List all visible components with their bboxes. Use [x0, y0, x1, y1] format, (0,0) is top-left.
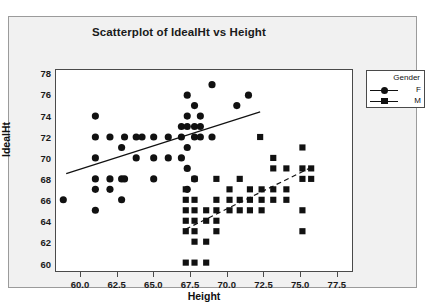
- data-point-circle: [92, 133, 99, 140]
- x-tick-label: 60.0: [71, 279, 90, 290]
- data-point-square: [213, 228, 219, 234]
- legend: Gender F M: [366, 70, 425, 108]
- data-point-circle: [184, 144, 191, 151]
- x-tick-label: 72.5: [254, 279, 273, 290]
- y-tick-label: 60: [40, 258, 51, 269]
- y-tick-label: 70: [40, 152, 51, 163]
- data-point-circle: [92, 186, 99, 193]
- y-tick-label: 66: [40, 195, 51, 206]
- legend-item-m[interactable]: M: [367, 95, 425, 107]
- x-tick-mark: [263, 272, 264, 277]
- data-point-circle: [92, 207, 99, 214]
- data-point-circle: [197, 133, 204, 140]
- x-tick-mark: [153, 272, 154, 277]
- data-point-square: [299, 207, 305, 213]
- data-point-circle: [92, 154, 99, 161]
- data-point-circle: [150, 154, 157, 161]
- data-point-square: [299, 176, 305, 182]
- data-point-circle: [184, 165, 191, 172]
- series-f: [60, 81, 260, 214]
- data-point-circle: [233, 102, 240, 109]
- x-tick-mark: [337, 272, 338, 277]
- data-point-square: [283, 197, 289, 203]
- data-point-square: [191, 218, 197, 224]
- x-tick-label: 65.0: [144, 279, 163, 290]
- x-tick-mark: [80, 272, 81, 277]
- cut-off-header-text: [14, 0, 254, 8]
- data-point-square: [213, 176, 219, 182]
- data-point-square: [213, 218, 219, 224]
- x-tick-mark: [117, 272, 118, 277]
- data-point-square: [308, 176, 314, 182]
- y-tick-label: 62: [40, 237, 51, 248]
- data-point-circle: [106, 133, 113, 140]
- data-point-circle: [197, 123, 204, 130]
- data-point-square: [183, 260, 189, 266]
- x-tick-label: 62.5: [107, 279, 126, 290]
- data-point-square: [183, 218, 189, 224]
- x-tick-label: 70.0: [218, 279, 237, 290]
- data-point-square: [203, 260, 209, 266]
- data-point-circle: [118, 144, 125, 151]
- data-point-circle: [133, 154, 140, 161]
- data-point-square: [247, 186, 253, 192]
- data-point-circle: [197, 112, 204, 119]
- data-point-circle: [245, 92, 252, 99]
- data-point-circle: [118, 196, 125, 203]
- data-point-square: [257, 134, 263, 140]
- data-point-circle: [150, 175, 157, 182]
- x-tick-mark: [190, 272, 191, 277]
- data-point-circle: [106, 175, 113, 182]
- data-point-circle: [150, 133, 157, 140]
- graph-window: Scatterplot of IdealHt vs Height 6062646…: [8, 16, 417, 288]
- data-point-square: [270, 155, 276, 161]
- data-point-square: [299, 228, 305, 234]
- data-point-square: [237, 176, 243, 182]
- data-point-circle: [60, 196, 67, 203]
- y-axis-ticks: 60626466687072747678: [21, 69, 51, 272]
- data-point-square: [191, 228, 197, 234]
- data-point-square: [283, 165, 289, 171]
- data-point-square: [270, 197, 276, 203]
- data-point-circle: [208, 133, 215, 140]
- data-point-circle: [165, 133, 172, 140]
- fit-line-f: [66, 112, 260, 174]
- y-tick-label: 74: [40, 110, 51, 121]
- series-m: [183, 134, 315, 266]
- data-point-square: [226, 186, 232, 192]
- x-tick-mark: [227, 272, 228, 277]
- y-axis-label: IdealHt: [0, 122, 12, 157]
- data-point-circle: [121, 133, 128, 140]
- x-axis-label: Height: [55, 290, 353, 302]
- scatter-svg: [56, 70, 352, 271]
- data-point-circle: [184, 123, 191, 130]
- data-point-square: [270, 165, 276, 171]
- data-point-square: [299, 165, 305, 171]
- data-point-square: [247, 207, 253, 213]
- data-point-square: [213, 197, 219, 203]
- data-point-square: [183, 207, 189, 213]
- data-point-square: [203, 239, 209, 245]
- data-point-circle: [208, 81, 215, 88]
- data-point-square: [237, 207, 243, 213]
- data-point-circle: [121, 175, 128, 182]
- data-point-square: [283, 186, 289, 192]
- data-point-square: [191, 207, 197, 213]
- data-point-circle: [92, 112, 99, 119]
- plot-area: [55, 69, 353, 272]
- data-point-square: [191, 176, 197, 182]
- data-point-circle: [106, 186, 113, 193]
- x-tick-label: 67.5: [181, 279, 200, 290]
- data-point-square: [259, 197, 265, 203]
- chart-title: Scatterplot of IdealHt vs Height: [9, 26, 349, 38]
- y-tick-label: 72: [40, 131, 51, 142]
- legend-label-m: M: [414, 95, 421, 107]
- data-point-square: [259, 207, 265, 213]
- data-point-circle: [191, 102, 198, 109]
- data-point-circle: [138, 133, 145, 140]
- y-tick-label: 76: [40, 89, 51, 100]
- fit-line-m: [186, 167, 311, 229]
- data-point-square: [299, 144, 305, 150]
- data-point-square: [183, 186, 189, 192]
